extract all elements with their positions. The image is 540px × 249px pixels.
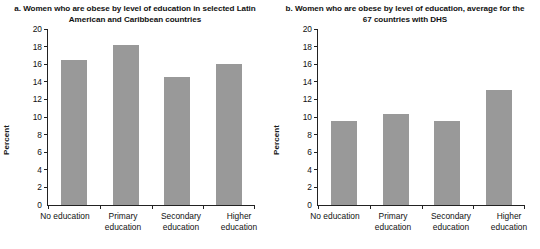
x-label-higher-education: Higher education [210, 211, 268, 233]
y-tick-label: 0 [16, 200, 42, 210]
panel-b-y-axis-label: Percent [272, 79, 281, 91]
panel-b-plot: Percent 20 18 16 14 12 10 8 6 4 2 0 [270, 29, 540, 249]
panel-a-x-tickmarks [48, 205, 255, 209]
bar-higher-education[interactable] [216, 64, 242, 205]
y-tick-label: 6 [16, 147, 42, 157]
panel-b: b. Women who are obese by level of educa… [270, 0, 540, 249]
bar-cell [203, 29, 255, 205]
bar-cell [152, 29, 204, 205]
x-label-higher-education: Higher education [480, 211, 538, 233]
panel-a-y-axis-label: Percent [2, 79, 11, 91]
x-label-primary-education: Primary education [364, 211, 422, 233]
y-tick-label: 12 [16, 94, 42, 104]
x-tickmark [524, 205, 525, 209]
x-label-no-education: No education [36, 211, 94, 233]
panel-b-y-ticks: 20 18 16 14 12 10 8 6 4 2 0 [286, 29, 312, 205]
panel-a-y-ticks: 20 18 16 14 12 10 8 6 4 2 0 [16, 29, 42, 205]
x-label-primary-education: Primary education [94, 211, 152, 233]
x-tickmark [203, 205, 204, 209]
x-label-no-education: No education [306, 211, 364, 233]
y-tick-label: 18 [16, 42, 42, 52]
bar-no-education[interactable] [61, 60, 87, 205]
bar-cell [422, 29, 474, 205]
y-tick-label: 12 [286, 94, 312, 104]
bar-no-education[interactable] [331, 121, 357, 205]
panel-b-title-line1: b. Women who are obese by level of educa… [286, 4, 465, 13]
y-tick-label: 18 [286, 42, 312, 52]
y-tick-label: 14 [16, 77, 42, 87]
bar-cell [100, 29, 152, 205]
panel-a-x-labels: No education Primary education Secondary… [36, 211, 268, 233]
y-tick-label: 16 [286, 59, 312, 69]
x-tickmark [254, 205, 255, 209]
y-tick-label: 8 [286, 130, 312, 140]
bar-cell [48, 29, 100, 205]
y-tick-label: 0 [286, 200, 312, 210]
x-tickmark [318, 205, 319, 209]
panel-a-axis-area: 20 18 16 14 12 10 8 6 4 2 0 [16, 29, 268, 249]
y-tick-label: 16 [16, 59, 42, 69]
bar-primary-education[interactable] [383, 114, 409, 205]
x-tickmark [48, 205, 49, 209]
bar-cell [370, 29, 422, 205]
bar-primary-education[interactable] [113, 45, 139, 205]
y-tick-label: 20 [16, 24, 42, 34]
x-tickmark [152, 205, 153, 209]
panel-a-title: a. Women who are obese by level of educa… [0, 0, 270, 25]
panel-a: a. Women who are obese by level of educa… [0, 0, 270, 249]
y-tick-label: 10 [16, 112, 42, 122]
y-tick-label: 20 [286, 24, 312, 34]
x-label-secondary-education: Secondary education [152, 211, 210, 233]
panel-a-title-line1: a. Women who are obese by level of educa… [14, 4, 200, 13]
panel-b-title: b. Women who are obese by level of educa… [270, 0, 540, 25]
panel-b-axis-area: 20 18 16 14 12 10 8 6 4 2 0 [286, 29, 538, 249]
bar-higher-education[interactable] [486, 90, 512, 205]
panel-b-bars [318, 29, 525, 205]
y-tick-label: 6 [286, 147, 312, 157]
y-tick-label: 10 [286, 112, 312, 122]
x-tickmark [100, 205, 101, 209]
x-tickmark [473, 205, 474, 209]
y-tick-label: 4 [286, 165, 312, 175]
panel-b-x-tickmarks [318, 205, 525, 209]
x-label-secondary-education: Secondary education [422, 211, 480, 233]
y-tick-label: 2 [286, 182, 312, 192]
y-tick-label: 8 [16, 130, 42, 140]
y-tick-label: 14 [286, 77, 312, 87]
panel-a-bars [48, 29, 255, 205]
panel-b-x-labels: No education Primary education Secondary… [306, 211, 538, 233]
x-tickmark [422, 205, 423, 209]
panel-a-plot: Percent 20 18 16 14 12 10 8 6 4 2 0 [0, 29, 270, 249]
y-tick-label: 4 [16, 165, 42, 175]
bar-secondary-education[interactable] [434, 121, 460, 205]
bar-cell [318, 29, 370, 205]
y-tick-label: 2 [16, 182, 42, 192]
x-tickmark [370, 205, 371, 209]
bar-cell [473, 29, 525, 205]
bar-secondary-education[interactable] [164, 77, 190, 205]
figure-two-panel-bar-charts: a. Women who are obese by level of educa… [0, 0, 540, 249]
